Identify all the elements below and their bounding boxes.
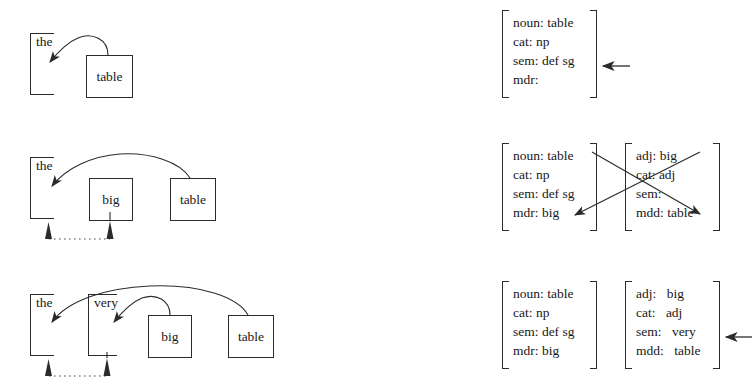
feature-row: cat: np: [513, 303, 586, 322]
feature-row: noun: table: [513, 13, 586, 32]
feature-key: cat:: [513, 167, 533, 182]
feature-row: cat: np: [513, 32, 586, 51]
avm-right-bracket: [590, 10, 597, 98]
feature-row: sem: def sg: [513, 322, 586, 341]
feature-value: big: [542, 343, 559, 358]
feature-key: sem:: [513, 324, 539, 339]
feature-key: cat:: [636, 305, 656, 320]
avm-right-bracket: [713, 143, 720, 231]
feature-key: adj:: [636, 286, 656, 301]
feature-value: table: [547, 148, 573, 163]
feature-key: noun:: [513, 148, 544, 163]
feature-row: mdr: big: [513, 203, 586, 222]
feature-value: table: [667, 205, 693, 220]
arrowhead-up-the-row-2: [45, 222, 52, 239]
avm-noun-table-row-2: noun: table cat: np sem: def sg mdr: big: [502, 143, 597, 231]
feature-key: noun:: [513, 15, 544, 30]
feature-value: def sg: [542, 186, 575, 201]
avm-left-bracket: [625, 143, 632, 231]
feature-key: cat:: [513, 305, 533, 320]
feature-row: sem: def sg: [513, 51, 586, 70]
feature-row: sem: def sg: [513, 184, 586, 203]
feature-value: big: [542, 205, 559, 220]
arrowhead-up-the-row-3: [45, 359, 52, 376]
feature-value: big: [660, 148, 677, 163]
feature-row: cat: np: [513, 165, 586, 184]
avm-feature-rows: noun: table cat: np sem: def sg mdr:: [513, 13, 586, 89]
avm-noun-table-row-1: noun: table cat: np sem: def sg mdr:: [502, 10, 597, 98]
figure-stage: the table noun: table cat: np sem: def s…: [0, 0, 754, 389]
feature-row: mdd: table: [636, 341, 709, 360]
feature-key: cat:: [636, 167, 656, 182]
feature-row: mdd: table: [636, 203, 709, 222]
feature-key: mdd:: [636, 205, 664, 220]
avm-right-bracket: [590, 281, 597, 369]
avm-feature-rows: noun: table cat: np sem: def sg mdr: big: [513, 146, 586, 222]
feature-key: adj:: [636, 148, 656, 163]
feature-value: np: [536, 34, 550, 49]
box-table-row-3: table: [228, 315, 274, 358]
avm-left-bracket: [502, 10, 509, 98]
arrowhead-up-very-row-3: [104, 358, 111, 376]
feature-value: np: [536, 167, 550, 182]
avm-feature-rows: adj: big cat: adj sem: very mdd: table: [636, 284, 709, 360]
avm-right-bracket: [713, 281, 720, 369]
feature-key: sem:: [513, 186, 539, 201]
feature-value: def sg: [542, 324, 575, 339]
feature-key: mdr:: [513, 72, 539, 87]
linguistic-parse-figure: the table noun: table cat: np sem: def s…: [0, 0, 754, 389]
feature-value: adj: [659, 167, 676, 182]
feature-value: adj: [659, 305, 683, 320]
arrowhead-up-big-row-2: [107, 221, 114, 239]
box-big-row-2: big: [89, 178, 133, 221]
feature-row: adj: big: [636, 284, 709, 303]
feature-value: big: [660, 286, 684, 301]
avm-adj-big-row-2: adj: big cat: adj sem: mdd: table: [625, 143, 720, 231]
feature-row: mdr: big: [513, 341, 586, 360]
box-table-row-1: table: [86, 55, 133, 98]
feature-key: mdd:: [636, 343, 664, 358]
feature-value: table: [547, 15, 573, 30]
feature-key: mdr:: [513, 205, 539, 220]
feature-value: np: [536, 305, 550, 320]
feature-key: sem:: [636, 186, 662, 201]
feature-row: sem:: [636, 184, 709, 203]
feature-key: sem:: [636, 324, 662, 339]
feature-row: cat: adj: [636, 165, 709, 184]
feature-row: noun: table: [513, 284, 586, 303]
feature-value: very: [665, 324, 696, 339]
feature-value: def sg: [542, 53, 575, 68]
box-table-row-2: table: [170, 178, 216, 221]
avm-left-bracket: [502, 281, 509, 369]
feature-row: noun: table: [513, 146, 586, 165]
feature-key: mdr:: [513, 343, 539, 358]
feature-row: sem: very: [636, 322, 709, 341]
feature-row: adj: big: [636, 146, 709, 165]
feature-key: cat:: [513, 34, 533, 49]
bracket-the-row-2: the: [30, 157, 54, 219]
feature-key: sem:: [513, 53, 539, 68]
avm-left-bracket: [502, 143, 509, 231]
feature-row: mdr:: [513, 70, 586, 89]
bracket-the-row-3: the: [30, 294, 54, 356]
bracket-word-the: the: [36, 296, 53, 310]
avm-feature-rows: noun: table cat: np sem: def sg mdr: big: [513, 284, 586, 360]
avm-left-bracket: [625, 281, 632, 369]
avm-adj-big-row-3: adj: big cat: adj sem: very mdd: table: [625, 281, 720, 369]
feature-row: cat: adj: [636, 303, 709, 322]
avm-feature-rows: adj: big cat: adj sem: mdd: table: [636, 146, 709, 222]
bracket-word-very: very: [94, 296, 118, 310]
avm-right-bracket: [590, 143, 597, 231]
feature-value: table: [547, 286, 573, 301]
feature-key: noun:: [513, 286, 544, 301]
bracket-the-row-1: the: [30, 33, 54, 95]
bracket-word-the: the: [36, 35, 53, 49]
box-big-row-3: big: [148, 315, 192, 358]
bracket-very-row-3: very: [88, 294, 117, 356]
avm-noun-table-row-3: noun: table cat: np sem: def sg mdr: big: [502, 281, 597, 369]
feature-value: table: [667, 343, 700, 358]
bracket-word-the: the: [36, 159, 53, 173]
